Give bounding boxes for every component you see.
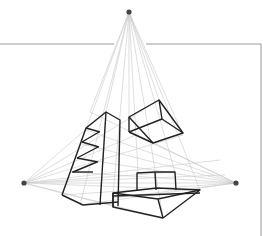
vp-right-icon <box>233 180 238 185</box>
vp-left-icon <box>21 180 26 185</box>
vanishing-points <box>21 9 238 185</box>
frame <box>0 44 261 236</box>
guide-lines-left <box>24 100 225 218</box>
perspective-diagram <box>0 0 263 236</box>
vp-top-icon <box>126 9 131 14</box>
